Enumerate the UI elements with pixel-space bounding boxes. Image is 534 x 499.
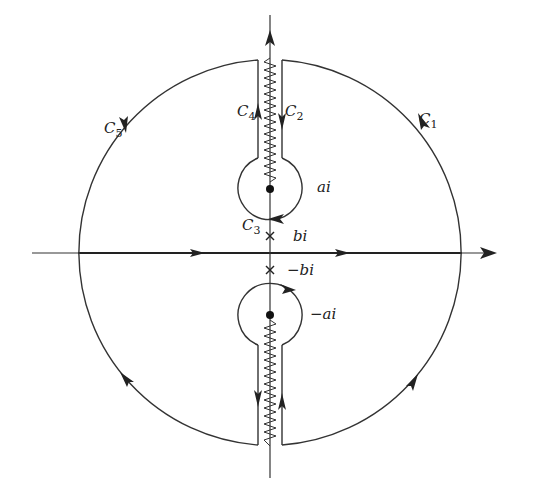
label-neg-bi: −bi bbox=[287, 261, 314, 279]
label-ai: ai bbox=[317, 178, 331, 196]
label-neg-ai: −ai bbox=[310, 305, 337, 323]
contour-diagram: C1 C2 C3 C4 C5 ai −ai bi −bi bbox=[0, 0, 534, 499]
c1-lower-arrow-icon bbox=[406, 374, 418, 391]
branch-point-ai-dot bbox=[266, 185, 274, 193]
real-axis bbox=[32, 247, 497, 259]
label-c1: C1 bbox=[419, 110, 437, 131]
label-c2: C2 bbox=[285, 102, 303, 123]
label-c5: C5 bbox=[104, 119, 122, 140]
label-c3: C3 bbox=[242, 216, 260, 237]
branch-point-neg-ai-dot bbox=[266, 311, 274, 319]
label-bi: bi bbox=[293, 227, 308, 245]
label-c4: C4 bbox=[237, 102, 255, 123]
lower-circle-arrow-icon bbox=[280, 284, 296, 294]
